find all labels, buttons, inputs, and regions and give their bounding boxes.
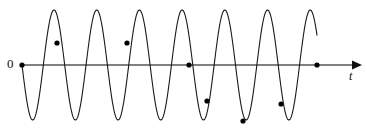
marker-point — [186, 62, 191, 67]
marker-point — [314, 62, 319, 67]
marker-point — [204, 98, 209, 103]
marker-point — [240, 118, 245, 123]
waveform-figure: 0 t — [0, 0, 367, 134]
marker-point — [54, 40, 59, 45]
marker-point — [124, 40, 129, 45]
marker-point — [278, 101, 283, 106]
marker-point — [19, 62, 24, 67]
time-axis-label: t — [349, 70, 352, 82]
waveform-plot — [0, 0, 367, 134]
origin-label: 0 — [7, 57, 14, 70]
axis-arrowhead-icon — [352, 61, 362, 70]
